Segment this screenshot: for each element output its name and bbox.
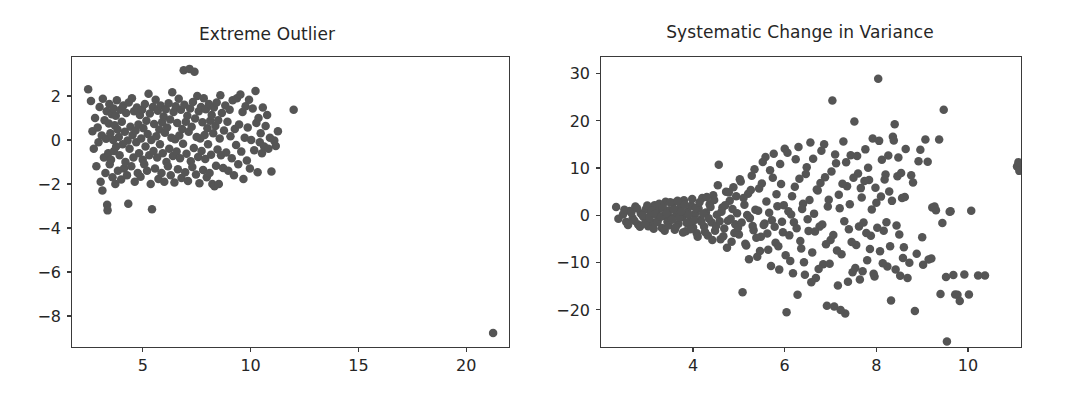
- data-point: [853, 152, 862, 161]
- data-point: [170, 178, 179, 187]
- data-point: [259, 103, 268, 112]
- data-point: [810, 209, 819, 218]
- data-point: [918, 233, 927, 242]
- data-point: [98, 186, 107, 195]
- data-point: [146, 180, 155, 189]
- data-point: [833, 246, 842, 255]
- data-point: [836, 306, 845, 315]
- data-point: [802, 170, 811, 179]
- data-point: [128, 94, 137, 103]
- data-point: [806, 138, 815, 147]
- data-point: [890, 120, 899, 129]
- data-point: [761, 153, 770, 162]
- y-tick-mark: [596, 73, 600, 74]
- x-tick-label: 15: [348, 356, 368, 375]
- y-tick-mark: [67, 139, 71, 140]
- data-point: [234, 160, 243, 169]
- data-point: [184, 177, 193, 186]
- data-point: [785, 231, 794, 240]
- data-point: [911, 307, 920, 316]
- data-point: [250, 146, 259, 155]
- data-point: [218, 109, 227, 118]
- chart-title-left: Extreme Outlier: [0, 24, 534, 44]
- data-point: [122, 109, 131, 118]
- data-point: [776, 160, 785, 169]
- data-point: [167, 171, 176, 180]
- y-tick-label: −8: [5, 307, 61, 326]
- data-point: [897, 169, 906, 178]
- data-point: [101, 169, 110, 178]
- data-point: [808, 248, 817, 257]
- data-point: [205, 169, 214, 178]
- data-point: [188, 163, 197, 172]
- data-point: [107, 156, 116, 165]
- data-point: [792, 224, 801, 233]
- y-tick-label: 20: [534, 111, 590, 130]
- data-point: [846, 200, 855, 209]
- data-point: [762, 197, 771, 206]
- data-point: [860, 177, 869, 186]
- data-point: [803, 215, 812, 224]
- x-tick-label: 6: [780, 356, 790, 375]
- data-point: [769, 173, 778, 182]
- chart-panel-systematic-change-in-variance: Systematic Change in Variance 3020100−10…: [533, 0, 1067, 402]
- data-point: [96, 178, 105, 187]
- data-point: [95, 103, 104, 112]
- data-point: [831, 150, 840, 159]
- data-point: [765, 208, 774, 217]
- data-point: [834, 281, 843, 290]
- data-point: [245, 95, 254, 104]
- data-point: [191, 114, 200, 123]
- data-point: [690, 216, 699, 225]
- data-point: [124, 200, 133, 209]
- data-point: [775, 265, 784, 274]
- data-point: [868, 205, 877, 214]
- data-point: [84, 85, 93, 94]
- data-point: [756, 247, 765, 256]
- data-point: [884, 151, 893, 160]
- data-point: [163, 123, 172, 132]
- data-point: [738, 288, 747, 297]
- data-point: [190, 144, 199, 153]
- data-point: [187, 123, 196, 132]
- data-point: [923, 157, 932, 166]
- data-point: [850, 117, 859, 126]
- data-point: [839, 137, 848, 146]
- data-point: [885, 187, 894, 196]
- data-point: [695, 198, 704, 207]
- data-point: [793, 290, 802, 299]
- data-point: [778, 217, 787, 226]
- y-tick-mark: [596, 262, 600, 263]
- data-point: [791, 155, 800, 164]
- data-point: [797, 244, 806, 253]
- data-point: [204, 140, 213, 149]
- y-tick-label: −4: [5, 219, 61, 238]
- data-point: [243, 123, 252, 132]
- data-point: [882, 218, 891, 227]
- data-point: [236, 90, 245, 99]
- data-point: [745, 255, 754, 263]
- data-point: [847, 238, 856, 247]
- y-tick-mark: [596, 215, 600, 216]
- data-point: [791, 182, 800, 191]
- data-point: [807, 278, 816, 287]
- data-point: [879, 259, 888, 268]
- data-point: [840, 217, 849, 226]
- data-point: [174, 165, 183, 174]
- data-point: [253, 168, 262, 177]
- data-point: [181, 168, 190, 177]
- data-point: [164, 162, 173, 171]
- data-point: [226, 132, 235, 141]
- data-point: [777, 180, 786, 189]
- data-point: [874, 74, 883, 83]
- data-point: [823, 302, 832, 311]
- data-point: [192, 170, 201, 179]
- x-tick-mark: [876, 348, 877, 352]
- scatter-series: [72, 57, 510, 348]
- y-tick-mark: [596, 167, 600, 168]
- data-point: [974, 271, 983, 280]
- y-tick-label: −2: [5, 175, 61, 194]
- data-point: [873, 224, 882, 233]
- data-point: [732, 192, 741, 201]
- x-tick-mark: [692, 348, 693, 352]
